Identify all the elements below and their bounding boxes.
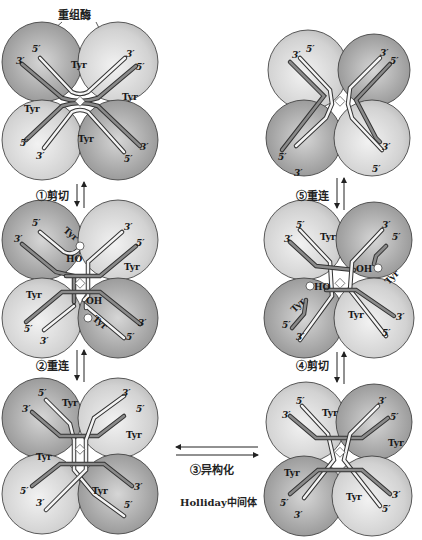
svg-text:5′: 5′ (392, 232, 401, 242)
svg-text:5′: 5′ (306, 44, 315, 54)
svg-text:5′: 5′ (124, 154, 133, 164)
recombinase-title: 重组酶 (58, 6, 91, 22)
svg-text:3′: 3′ (138, 318, 147, 328)
phosphate-icon (76, 242, 84, 250)
svg-text:3′: 3′ (382, 220, 391, 230)
svg-text:5′: 5′ (24, 324, 33, 334)
svg-text:5′: 5′ (136, 404, 145, 414)
svg-text:3′: 3′ (140, 142, 149, 152)
svg-text:3′: 3′ (282, 410, 291, 420)
svg-text:3′: 3′ (36, 498, 45, 508)
svg-text:3′: 3′ (292, 50, 301, 60)
svg-text:Tyr: Tyr (284, 468, 300, 478)
svg-text:Tyr: Tyr (36, 452, 52, 462)
svg-text:5′: 5′ (20, 138, 29, 148)
svg-text:Tyr: Tyr (126, 430, 142, 440)
svg-text:5′: 5′ (390, 56, 399, 66)
panel-top-right: 5′ 3′ 3′ 5′ 5′ 3′ 3′ 5′ (266, 30, 410, 178)
svg-text:Tyr: Tyr (322, 408, 338, 418)
step-5-label: ⑤重连 (296, 187, 329, 203)
svg-text:3′: 3′ (296, 332, 305, 342)
svg-text:3′: 3′ (22, 404, 31, 414)
svg-text:Tyr: Tyr (71, 60, 87, 70)
recombinase-diagram: 5′ 3′ 3′ 5′ 5′ 3′ 3′ 5′ Tyr Tyr Tyr Tyr (0, 0, 422, 540)
svg-text:3′: 3′ (380, 48, 389, 58)
svg-text:3′: 3′ (126, 49, 135, 59)
svg-text:3′: 3′ (294, 168, 303, 178)
svg-text:3′: 3′ (294, 510, 303, 520)
svg-text:Tyr: Tyr (388, 438, 404, 448)
svg-text:5′: 5′ (136, 238, 145, 248)
svg-text:Tyr: Tyr (78, 134, 94, 144)
center-diamond (75, 444, 85, 454)
svg-text:5′: 5′ (390, 412, 399, 422)
step-3-label: ③异构化 (190, 461, 234, 477)
svg-text:5′: 5′ (296, 396, 305, 406)
svg-text:Tyr: Tyr (62, 398, 78, 408)
svg-text:5′: 5′ (282, 320, 291, 330)
svg-text:Tyr: Tyr (320, 232, 336, 242)
panel-middle-right: 5′ 3′ 3′ 5′ 5′ 3′ 3′ 5′ OH HO Tyr Tyr Ty… (264, 200, 414, 358)
svg-text:5′: 5′ (382, 328, 391, 338)
center-diamond (75, 278, 85, 288)
svg-text:3′: 3′ (392, 490, 401, 500)
svg-text:3′: 3′ (40, 336, 49, 346)
step-2-label: ②重连 (36, 357, 69, 373)
svg-text:5′: 5′ (296, 220, 305, 230)
center-diamond (335, 278, 345, 288)
svg-text:Tyr: Tyr (124, 262, 140, 272)
svg-text:3′: 3′ (284, 234, 293, 244)
step-4-label: ④剪切 (296, 357, 329, 373)
svg-text:Tyr: Tyr (346, 492, 362, 502)
panel-bottom-left: 5′ 3′ 3′ 5′ 5′ 3′ 3′ 5′ Tyr Tyr Tyr Tyr (2, 378, 158, 534)
svg-text:3′: 3′ (396, 312, 405, 322)
svg-text:3′: 3′ (382, 142, 391, 152)
panel-top-left: 5′ 3′ 3′ 5′ 5′ 3′ 3′ 5′ Tyr Tyr Tyr Tyr (2, 22, 158, 180)
svg-text:Tyr: Tyr (348, 310, 364, 320)
svg-text:5′: 5′ (136, 62, 145, 72)
svg-text:3′: 3′ (36, 151, 45, 161)
step-1-label: ①剪切 (36, 187, 69, 203)
svg-text:Tyr: Tyr (24, 104, 40, 114)
svg-text:Tyr: Tyr (92, 486, 108, 496)
panel-bottom-right: 5′ 3′ 3′ 5′ 5′ 3′ 3′ 5′ Tyr Tyr Tyr Tyr (264, 382, 412, 536)
svg-text:3′: 3′ (134, 482, 143, 492)
svg-text:OH: OH (86, 296, 103, 306)
panel-middle-left: 5′ 3′ 3′ 5′ 5′ 3′ 3′ 5′ HO OH Tyr Tyr Ty… (2, 200, 158, 358)
svg-text:3′: 3′ (16, 56, 25, 66)
svg-text:3′: 3′ (378, 396, 387, 406)
svg-text:5′: 5′ (124, 500, 133, 510)
svg-text:5′: 5′ (32, 218, 41, 228)
svg-text:5′: 5′ (20, 486, 29, 496)
holliday-intermediate-caption: Holliday中间体 (180, 494, 257, 509)
svg-text:5′: 5′ (126, 332, 135, 342)
svg-text:Tyr: Tyr (122, 92, 138, 102)
svg-text:5′: 5′ (382, 504, 391, 514)
svg-text:HO: HO (66, 254, 83, 264)
svg-text:5′: 5′ (32, 44, 41, 54)
svg-text:5′: 5′ (372, 164, 381, 174)
svg-text:5′: 5′ (38, 388, 47, 398)
phosphate-icon (374, 264, 382, 272)
svg-text:3′: 3′ (122, 388, 131, 398)
svg-text:5′: 5′ (280, 498, 289, 508)
svg-text:OH: OH (356, 264, 373, 274)
svg-text:3′: 3′ (124, 222, 133, 232)
svg-text:5′: 5′ (278, 152, 287, 162)
svg-text:Tyr: Tyr (26, 290, 42, 300)
svg-text:HO: HO (314, 282, 331, 292)
recombinase-subunit (268, 30, 348, 110)
svg-text:3′: 3′ (14, 234, 23, 244)
phosphate-icon (306, 282, 314, 290)
